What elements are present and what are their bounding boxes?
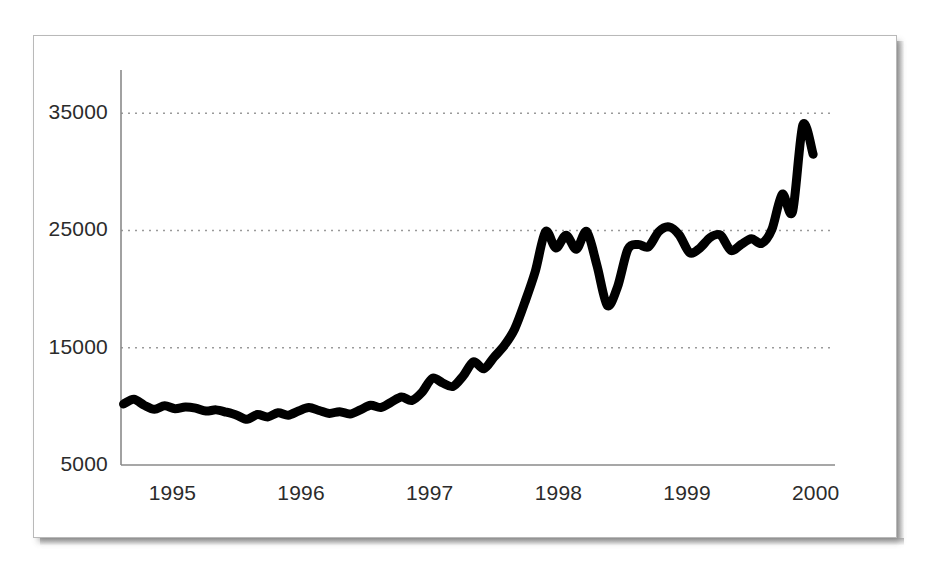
axis-lines — [121, 70, 835, 465]
data-series-line — [124, 123, 814, 419]
figure-root: 5000150002500035000 19951996199719981999… — [0, 0, 932, 569]
x-tick-label: 1997 — [370, 481, 490, 505]
gridlines — [121, 113, 835, 348]
y-tick-label: 25000 — [0, 217, 108, 241]
y-tick-label: 5000 — [0, 452, 108, 476]
y-tick-label: 35000 — [0, 100, 108, 124]
x-tick-label: 1995 — [112, 481, 232, 505]
x-tick-label: 1998 — [498, 481, 618, 505]
y-tick-label: 15000 — [0, 335, 108, 359]
x-tick-label: 1996 — [241, 481, 361, 505]
x-tick-label: 1999 — [627, 481, 747, 505]
x-tick-label: 2000 — [756, 481, 876, 505]
